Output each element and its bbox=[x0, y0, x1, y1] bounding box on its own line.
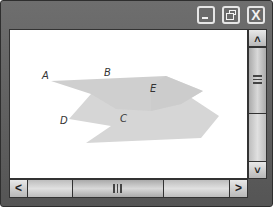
vertical-scroll-thumb[interactable] bbox=[248, 47, 267, 114]
point-label-c: C bbox=[120, 113, 127, 124]
horizontal-scrollbar[interactable]: < > bbox=[9, 179, 248, 198]
grip-icon bbox=[113, 184, 122, 193]
horizontal-scroll-thumb[interactable] bbox=[72, 179, 164, 198]
point-label-d: D bbox=[60, 115, 68, 126]
scroll-up-button[interactable]: ˄ bbox=[248, 29, 267, 47]
scroll-right-button[interactable]: > bbox=[229, 179, 248, 198]
scroll-left-button[interactable]: < bbox=[9, 179, 28, 198]
vertical-scrollbar[interactable]: ˄ ˅ bbox=[248, 29, 267, 179]
scroll-down-button[interactable]: ˅ bbox=[248, 161, 267, 179]
point-label-a: A bbox=[41, 70, 49, 81]
point-label-b: B bbox=[104, 67, 111, 78]
point-label-e: E bbox=[150, 83, 157, 94]
app-window: X A B E D C ˄ ˅ < > bbox=[0, 0, 273, 207]
planes-figure: A B E D C bbox=[1, 1, 273, 207]
content-area: A B E D C bbox=[9, 29, 248, 179]
grip-icon bbox=[253, 75, 262, 86]
